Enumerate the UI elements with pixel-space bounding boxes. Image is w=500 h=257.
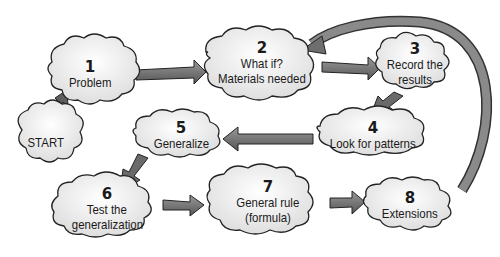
node-1-label: Problem	[69, 75, 112, 90]
node-3-label-line1: Record the	[387, 57, 443, 72]
node-2-number: 2	[257, 41, 267, 56]
node-4-number: 4	[368, 121, 378, 136]
node-5-label: Generalize	[153, 136, 208, 151]
node-start-label: START	[28, 135, 64, 150]
node-7-label-line2: (formula)	[245, 210, 291, 225]
node-2-label-line2: Materials needed	[218, 71, 306, 86]
arrow-6-to-7	[163, 195, 204, 216]
arrow-1-to-2	[136, 60, 206, 84]
node-4: 4 Look for patterns	[314, 114, 432, 158]
node-6-label-line2: generalization	[71, 217, 142, 232]
arrow-4-to-5	[223, 127, 313, 151]
node-2: 2 What if? Materials needed	[200, 32, 324, 94]
node-5-number: 5	[176, 121, 186, 136]
node-6-number: 6	[102, 187, 112, 202]
node-3-number: 3	[410, 42, 420, 57]
node-4-label: Look for patterns	[330, 136, 416, 151]
arrow-7-to-8	[330, 191, 365, 214]
node-7-number: 7	[263, 180, 273, 195]
node-7-label-line1: General rule	[237, 195, 300, 210]
node-3-label-line2: results	[398, 72, 432, 87]
node-5: 5 Generalize	[132, 114, 230, 158]
node-start: START	[14, 120, 78, 164]
node-8-number: 8	[405, 191, 415, 206]
node-2-label-line1: What if?	[241, 56, 283, 71]
node-8-label: Extensions	[382, 206, 438, 221]
node-1: 1 Problem	[46, 50, 134, 100]
node-6: 6 Test the generalization	[52, 180, 162, 238]
node-8: 8 Extensions	[362, 182, 458, 230]
node-3: 3 Record the results	[372, 36, 458, 92]
node-1-number: 1	[85, 60, 95, 75]
node-6-label-line1: Test the	[87, 202, 127, 217]
node-7: 7 General rule (formula)	[206, 172, 330, 232]
